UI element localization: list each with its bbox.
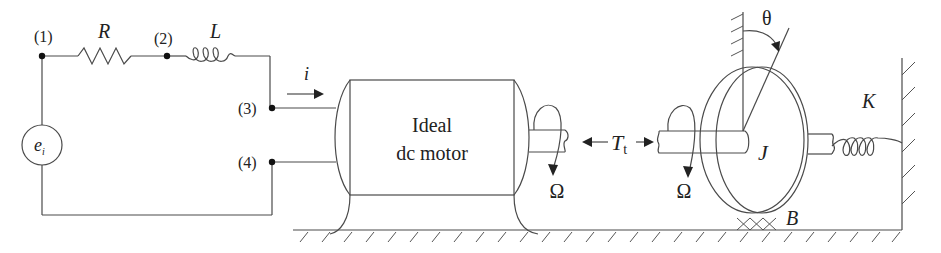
node-3-dot xyxy=(269,105,275,111)
motor-label-line1: Ideal xyxy=(412,114,452,136)
spring-element: K xyxy=(832,90,902,155)
node-3-label: (3) xyxy=(238,100,257,118)
electrical-circuit: (1) (2) (3) (4) R L ei i xyxy=(22,20,336,215)
motor-label-line2: dc motor xyxy=(396,142,468,164)
svg-text:Tt: Tt xyxy=(611,130,627,157)
torque-indicator: Tt xyxy=(582,130,654,157)
node-1-label: (1) xyxy=(34,28,53,46)
dc-motor-system-diagram: (1) (2) (3) (4) R L ei i Ideal dc motor xyxy=(0,0,941,253)
load-shaft: Ω xyxy=(657,105,748,202)
resistor-symbol xyxy=(78,48,131,64)
node-2-label: (2) xyxy=(154,30,173,48)
node-4-label: (4) xyxy=(238,154,257,172)
inertia-label: J xyxy=(758,140,769,165)
resistor-label: R xyxy=(97,20,110,42)
node-1-dot xyxy=(39,53,45,59)
motor-speed-label: Ω xyxy=(550,180,565,202)
load-speed-label: Ω xyxy=(677,180,692,202)
inductor-symbol xyxy=(186,48,235,62)
current-arrow xyxy=(287,89,324,99)
ground xyxy=(293,230,902,242)
angle-label: θ xyxy=(762,7,772,29)
node-4-dot xyxy=(269,159,275,165)
source-label: ei xyxy=(34,135,45,157)
spring-label: K xyxy=(861,90,877,112)
damping-label: B xyxy=(786,207,798,229)
dc-motor: Ideal dc motor xyxy=(330,80,538,234)
inductor-label: L xyxy=(209,20,221,42)
motor-shaft: Ω xyxy=(529,105,568,202)
current-label: i xyxy=(304,64,309,84)
node-2-dot xyxy=(164,53,170,59)
voltage-source-symbol xyxy=(22,125,62,165)
output-shaft xyxy=(808,134,835,154)
right-wall xyxy=(902,58,915,230)
inertia-wheel: J xyxy=(700,67,808,213)
